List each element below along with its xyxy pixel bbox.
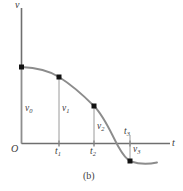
value-label-v0: v0 (25, 104, 32, 114)
velocity-time-plot (0, 0, 183, 191)
data-point-v2 (92, 104, 97, 109)
figure-caption: (b) (83, 170, 95, 181)
tick-label-t1: t1 (55, 147, 61, 157)
origin-label: O (11, 144, 18, 154)
value-label-v1: v1 (62, 104, 69, 114)
y-axis-label: v (15, 0, 19, 10)
tick-label-t3: t3 (124, 127, 130, 137)
x-axis-label: t (172, 138, 175, 148)
value-label-v2: v2 (97, 122, 104, 132)
tick-label-t2: t2 (90, 147, 96, 157)
value-label-v3: v3 (133, 145, 140, 155)
data-point-v0 (19, 65, 24, 70)
figure-container: v t O v0 v1 v2 v3 t1 t2 t3 (b) (0, 0, 183, 191)
data-point-v1 (57, 75, 62, 80)
data-point-v3 (128, 159, 133, 164)
